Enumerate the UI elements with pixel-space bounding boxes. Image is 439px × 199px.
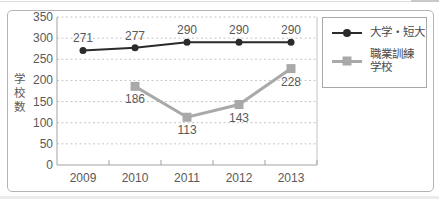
data-point [132, 44, 139, 51]
circle-marker-icon [343, 29, 351, 37]
legend-label-university: 大学・短大 [370, 26, 425, 39]
x-tick-label: 2013 [278, 171, 305, 185]
x-tick-label: 2009 [70, 171, 97, 185]
data-label: 186 [125, 92, 145, 106]
y-tick-label: 200 [33, 73, 53, 87]
x-tick-label: 2010 [122, 171, 149, 185]
data-label: 290 [281, 23, 301, 37]
data-label: 143 [229, 111, 249, 125]
data-label: 290 [229, 23, 249, 37]
y-tick-label: 100 [33, 116, 53, 130]
legend-line-square-icon [332, 60, 362, 63]
data-point [80, 47, 87, 54]
data-label: 228 [281, 75, 301, 89]
data-label: 113 [177, 123, 196, 137]
data-label: 277 [125, 29, 145, 43]
document-rule-top-right [411, 0, 439, 2]
y-axis-title: 学校数 [11, 73, 27, 115]
y-tick-label: 250 [33, 52, 53, 66]
legend-label-vocational-line1: 職業訓練 [370, 48, 414, 61]
x-tick-label: 2011 [174, 171, 200, 185]
data-label: 290 [177, 23, 197, 37]
legend-label-vocational-line2: 学校 [370, 61, 414, 74]
data-point [131, 82, 140, 91]
x-tick-label: 2012 [226, 171, 253, 185]
legend-line-circle-icon [332, 32, 362, 34]
legend: 大学・短大 職業訓練 学校 [322, 17, 427, 88]
y-tick-label: 0 [46, 158, 53, 172]
legend-item-vocational: 職業訓練 学校 [332, 48, 421, 74]
series-line-1 [135, 69, 291, 118]
data-label: 271 [73, 31, 93, 45]
y-tick-label: 150 [33, 95, 53, 109]
square-marker-icon [343, 57, 352, 66]
data-point [184, 39, 191, 46]
y-tick-label: 50 [40, 137, 54, 151]
data-point [183, 113, 192, 122]
data-point [287, 64, 296, 73]
data-point [236, 39, 243, 46]
data-point [235, 100, 244, 109]
y-tick-label: 350 [33, 11, 53, 24]
data-point [288, 39, 295, 46]
y-tick-label: 300 [33, 31, 53, 45]
chart-frame: 0501001502002503003502009201020112012201… [7, 10, 434, 192]
legend-item-university: 大学・短大 [332, 26, 421, 39]
document-strip-bottom [0, 196, 439, 199]
legend-label-vocational: 職業訓練 学校 [370, 48, 414, 74]
document-rule-top [0, 1, 439, 2]
